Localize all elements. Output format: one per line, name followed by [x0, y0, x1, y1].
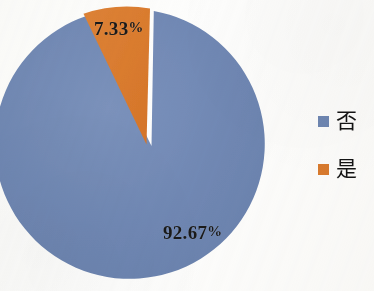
legend-item-yes[interactable]: 是	[318, 156, 357, 182]
legend-swatch-blue-icon	[318, 116, 329, 127]
legend-label-no: 否	[336, 111, 357, 132]
data-label-orange-value: 7.33	[94, 18, 128, 39]
data-label-blue-value: 92.67	[163, 222, 207, 243]
data-label-blue: 92.67%	[163, 222, 222, 244]
data-label-orange-percent-sign: %	[128, 19, 143, 35]
legend-swatch-orange-icon	[318, 164, 329, 175]
data-label-blue-percent-sign: %	[207, 223, 222, 239]
data-label-orange: 7.33%	[94, 18, 144, 40]
legend-label-yes: 是	[336, 159, 357, 180]
legend-item-no[interactable]: 否	[318, 108, 357, 134]
pie-chart-figure: 7.33% 92.67% 否 是	[0, 0, 374, 291]
chart-legend: 否 是	[318, 108, 357, 182]
